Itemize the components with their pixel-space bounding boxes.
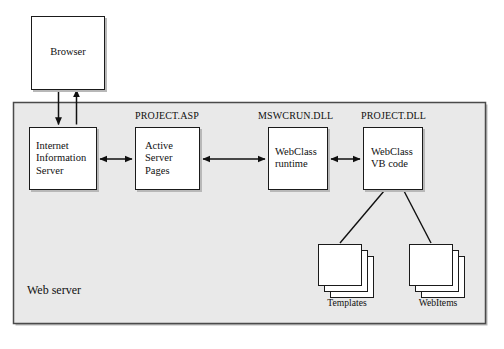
- templates-sheet-front: [318, 244, 362, 286]
- caption-mswcrun-dll: MSWCRUN.DLL: [258, 110, 333, 121]
- webitems-sheet-front: [409, 244, 453, 286]
- node-webclass-runtime-label: WebClass runtime: [275, 146, 331, 171]
- caption-project-asp: PROJECT.ASP: [135, 110, 199, 121]
- architecture-diagram: Web server Browser Internet Information …: [0, 0, 504, 349]
- node-asp-label: Active Server Pages: [145, 140, 203, 177]
- web-server-label: Web server: [27, 283, 81, 298]
- stack-templates-label: Templates: [308, 297, 386, 308]
- stack-webitems-label: WebItems: [399, 297, 477, 308]
- caption-project-dll: PROJECT.DLL: [361, 110, 426, 121]
- node-iis-label: Internet Information Server: [36, 140, 98, 177]
- node-browser-label: Browser: [31, 46, 105, 58]
- node-webclass-vb-label: WebClass VB code: [371, 146, 427, 171]
